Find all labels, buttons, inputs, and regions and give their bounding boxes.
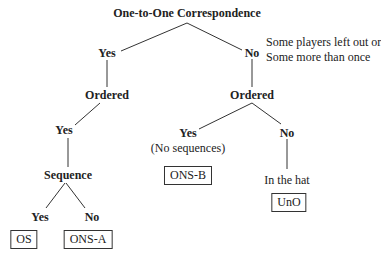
no-sequences-note: (No sequences) xyxy=(151,141,225,155)
left-ordered-label: Ordered xyxy=(85,88,129,102)
outcome-ons-a-box: ONS-A xyxy=(64,230,113,249)
edge-root-no xyxy=(187,23,242,50)
outcome-uno-box: UnO xyxy=(271,193,306,212)
right-ordered-yes-label: Yes xyxy=(179,126,196,140)
root-yes-label: Yes xyxy=(98,46,115,60)
edge-sequence-no xyxy=(66,183,85,208)
right-ordered-label: Ordered xyxy=(230,88,274,102)
edge-ordered-no-right xyxy=(252,103,281,124)
in-the-hat-label: In the hat xyxy=(264,173,309,187)
left-ordered-yes-label: Yes xyxy=(55,123,72,137)
root-no-label: No xyxy=(245,46,260,60)
no-note-line1: Some players left out or xyxy=(266,35,381,50)
right-ordered-no-label: No xyxy=(280,126,295,140)
sequence-no-label: No xyxy=(85,210,100,224)
no-note-line2: Some more than once xyxy=(266,50,370,65)
sequence-label: Sequence xyxy=(44,168,92,182)
edge-ordered-yes-mid xyxy=(199,103,252,129)
edge-ordered-yes-left xyxy=(75,103,100,125)
edge-root-yes xyxy=(121,23,187,51)
outcome-os-box: OS xyxy=(10,230,37,249)
sequence-yes-label: Yes xyxy=(31,210,48,224)
edge-sequence-yes xyxy=(46,183,65,208)
outcome-ons-b-box: ONS-B xyxy=(164,166,212,185)
root-node-label: One-to-One Correspondence xyxy=(113,6,260,20)
